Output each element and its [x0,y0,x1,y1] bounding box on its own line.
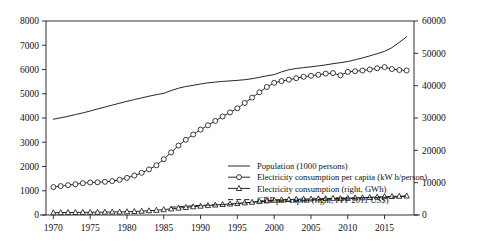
series-marker-circle [139,170,144,175]
y-tick-label-right: 20000 [422,146,446,156]
series-marker-circle [309,73,314,78]
series-marker-circle [301,74,306,79]
series-marker-circle [198,127,203,132]
series-marker-circle [73,182,78,187]
y-tick-label-left: 1000 [20,186,39,196]
series-line-0 [53,37,406,119]
series-marker-circle [154,163,159,168]
series-marker-circle [66,183,71,188]
y-tick-label-right: 0 [422,210,427,220]
x-tick-label: 2005 [301,223,320,233]
series-marker-circle [169,150,174,155]
x-tick-label: 2015 [375,223,394,233]
x-tick-label: 1970 [44,223,63,233]
series-marker-circle [228,110,233,115]
series-marker-circle [345,69,350,74]
series-line-1 [53,67,406,187]
series-marker-circle [205,123,210,128]
x-tick-label: 1980 [117,223,136,233]
series-marker-circle [404,68,409,73]
series-marker-circle [389,67,394,72]
series-marker-circle [294,76,299,81]
series-marker-circle [242,101,247,106]
y-tick-label-left: 2000 [20,162,39,172]
y-tick-label-left: 6000 [20,65,39,75]
series-marker-circle [382,65,387,70]
series-marker-circle [110,179,115,184]
y-tick-label-right: 50000 [422,49,446,59]
x-tick-label: 2000 [265,223,284,233]
series-marker-circle [176,143,181,148]
series-marker-circle [80,181,85,186]
line-chart: 0100020003000400050006000700080000100002… [0,0,477,247]
series-marker-circle [338,73,343,78]
series-marker-circle [397,68,402,73]
y-tick-label-left: 3000 [20,138,39,148]
series-marker-circle [102,179,107,184]
series-marker-circle [132,173,137,178]
x-tick-label: 1995 [228,223,247,233]
series-marker-circle [125,175,130,180]
legend-label-1: Electricity consumption per capita (kW h… [257,172,427,182]
series-marker-circle [286,77,291,82]
series-marker-circle [147,167,152,172]
x-tick-label: 1990 [191,223,210,233]
series-marker-circle [235,106,240,111]
series-marker-circle [353,69,358,74]
y-tick-label-left: 8000 [20,16,39,26]
series-marker-circle [264,85,269,90]
series-marker-circle [316,72,321,77]
series-marker-circle [220,114,225,119]
legend-marker-circle [237,175,242,180]
legend-label-0: Population (1000 persons) [257,161,348,171]
series-marker-circle [51,185,56,190]
y-tick-label-right: 30000 [422,113,446,123]
series-marker-circle [161,157,166,162]
series-marker-circle [323,71,328,76]
series-marker-circle [367,67,372,72]
series-marker-circle [95,180,100,185]
series-marker-circle [331,71,336,76]
legend-label-3: GDP per capita (right, PPP 2011 US$) [257,195,389,205]
y-tick-label-right: 40000 [422,81,446,91]
series-marker-circle [191,132,196,137]
series-marker-circle [117,177,122,182]
series-marker-circle [88,180,93,185]
series-marker-circle [183,137,188,142]
legend-label-2: Electricity consumption (right, GWh) [257,184,386,194]
x-tick-label: 1975 [81,223,100,233]
series-marker-circle [272,80,277,85]
chart-container: 0100020003000400050006000700080000100002… [0,0,477,247]
series-marker-circle [375,66,380,71]
series-marker-circle [250,95,255,100]
series-marker-circle [279,79,284,84]
y-tick-label-left: 4000 [20,113,39,123]
x-tick-label: 2010 [338,223,357,233]
series-marker-circle [213,118,218,123]
x-tick-label: 1985 [154,223,173,233]
y-tick-label-left: 7000 [20,41,39,51]
series-marker-circle [360,68,365,73]
y-tick-label-right: 60000 [422,16,446,26]
series-marker-circle [257,90,262,95]
y-tick-label-left: 0 [34,210,39,220]
series-marker-circle [58,184,63,189]
y-tick-label-left: 5000 [20,89,39,99]
